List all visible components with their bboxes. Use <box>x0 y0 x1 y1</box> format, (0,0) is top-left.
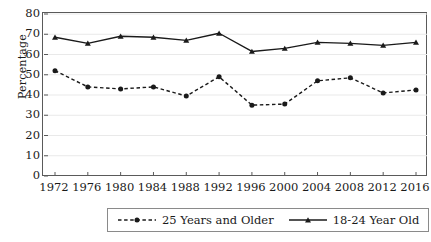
y-axis-tick-label: 20 <box>2 130 40 140</box>
series-line <box>55 33 416 51</box>
data-point-marker <box>118 86 123 91</box>
plot-svg <box>43 13 428 177</box>
y-axis-tick-label: 30 <box>2 109 40 119</box>
data-point-marker <box>184 94 189 99</box>
data-point-marker <box>282 102 287 107</box>
y-axis-tick-label: 60 <box>2 49 40 59</box>
data-point-marker <box>85 84 90 89</box>
legend-label: 18-24 Year Old <box>333 213 420 227</box>
y-axis-tick-labels: 01020304050607080 <box>0 0 40 242</box>
series-1 <box>53 68 419 107</box>
data-point-marker <box>414 87 419 92</box>
data-point-marker <box>217 74 222 79</box>
data-point-marker <box>135 218 140 223</box>
legend-dashed-line-icon <box>117 214 157 226</box>
y-axis-tick-label: 70 <box>2 28 40 38</box>
data-point-marker <box>53 68 58 73</box>
x-axis-tick-labels: 1972197619801984198819921996200020042008… <box>42 180 427 196</box>
data-point-marker <box>348 75 353 80</box>
legend-entry[interactable]: 18-24 Year Old <box>288 213 420 227</box>
y-axis-tick-label: 0 <box>2 170 40 180</box>
legend-entry[interactable]: 25 Years and Older <box>117 213 274 227</box>
plot-area <box>42 12 427 176</box>
data-point-marker <box>151 84 156 89</box>
data-point-marker <box>381 90 386 95</box>
series-line <box>55 71 416 105</box>
data-point-marker <box>249 103 254 108</box>
data-point-marker <box>315 78 320 83</box>
x-axis-tick-label: 2016 <box>393 180 431 194</box>
y-axis-tick-label: 80 <box>2 8 40 18</box>
y-axis-tick-label: 50 <box>2 69 40 79</box>
chart-legend: 25 Years and Older18-24 Year Old <box>107 208 429 232</box>
y-axis-tick-label: 10 <box>2 150 40 160</box>
legend-solid-line-icon <box>288 214 328 226</box>
legend-label: 25 Years and Older <box>162 213 274 227</box>
y-axis-tick-label: 40 <box>2 89 40 99</box>
chart-figure: Percentage 01020304050607080 19721976198… <box>0 0 431 242</box>
